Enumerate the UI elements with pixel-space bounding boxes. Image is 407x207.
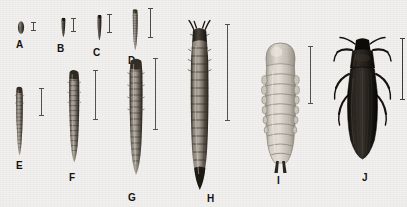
specimen-H-drawing	[180, 18, 220, 196]
specimen-label-I: I	[277, 176, 280, 186]
specimen-I-drawing	[258, 40, 304, 175]
specimen-label-C: C	[93, 48, 100, 58]
specimen-F-drawing	[64, 68, 88, 168]
specimen-D-drawing	[128, 8, 144, 52]
scalebar-D	[147, 8, 154, 38]
specimen-B-drawing	[58, 17, 70, 39]
figure-plate: A B	[0, 0, 407, 207]
specimen-I	[258, 40, 304, 175]
specimen-J	[332, 28, 394, 168]
specimen-C	[94, 14, 106, 42]
specimen-G	[124, 56, 152, 181]
specimen-A	[16, 20, 30, 40]
scalebar-A	[30, 22, 37, 31]
specimen-J-drawing	[332, 28, 394, 168]
specimen-G-drawing	[124, 56, 152, 181]
specimen-E	[12, 85, 30, 159]
specimen-E-drawing	[12, 85, 30, 159]
scalebar-B	[70, 18, 77, 32]
specimen-D	[128, 8, 144, 52]
specimen-A-drawing	[16, 20, 30, 40]
specimen-label-B: B	[57, 44, 64, 54]
specimen-F	[64, 68, 88, 168]
specimen-C-drawing	[94, 14, 106, 42]
scalebar-H	[224, 24, 231, 121]
specimen-H	[180, 18, 220, 196]
specimen-label-G: G	[128, 193, 136, 203]
specimen-label-F: F	[69, 173, 75, 183]
specimen-label-J: J	[362, 173, 368, 183]
specimen-label-H: H	[207, 194, 214, 204]
scalebar-E	[38, 88, 45, 116]
scalebar-I	[307, 46, 314, 104]
specimen-label-E: E	[16, 161, 23, 171]
scalebar-F	[92, 70, 99, 120]
scalebar-C	[106, 14, 113, 33]
scalebar-G	[152, 58, 159, 130]
specimen-B	[58, 17, 70, 39]
specimen-label-A: A	[16, 40, 23, 50]
scalebar-J	[399, 38, 406, 100]
